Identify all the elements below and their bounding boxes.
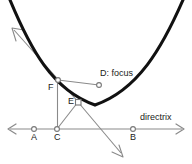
segment-f-to-d bbox=[58, 80, 99, 85]
ray-down-right-arrowhead bbox=[112, 145, 123, 157]
point-e-label: E bbox=[68, 97, 74, 106]
point-d-focus-marker[interactable] bbox=[97, 83, 102, 88]
point-c-label: C bbox=[54, 133, 61, 142]
point-f-marker[interactable] bbox=[56, 78, 61, 83]
parabola-curve bbox=[10, 0, 183, 105]
diagram-canvas bbox=[0, 0, 192, 164]
point-e-right-angle-marker[interactable] bbox=[76, 100, 82, 106]
segment-c-to-e bbox=[57, 102, 78, 129]
directrix-label: directrix bbox=[140, 113, 172, 122]
point-a-marker[interactable] bbox=[32, 127, 37, 132]
point-b-label: B bbox=[130, 133, 136, 142]
parabola-diagram: A C B F E D: focus directrix bbox=[0, 0, 192, 164]
point-c-marker[interactable] bbox=[55, 127, 60, 132]
point-f-label: F bbox=[48, 83, 54, 92]
point-b-marker[interactable] bbox=[131, 127, 136, 132]
point-a-label: A bbox=[31, 133, 37, 142]
focus-label: D: focus bbox=[100, 69, 133, 78]
